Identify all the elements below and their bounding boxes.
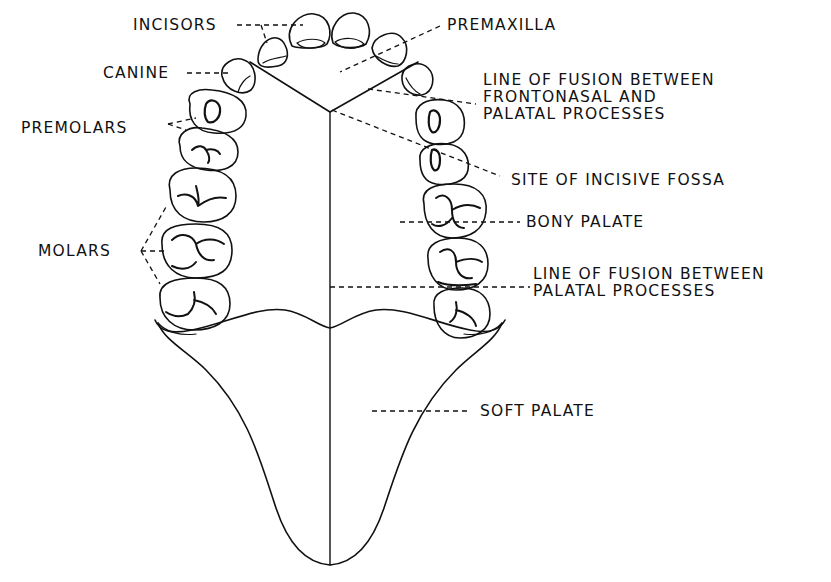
label-line: PALATAL PROCESSES xyxy=(483,104,715,124)
left-premolars xyxy=(179,90,246,171)
label-premaxilla: PREMAXILLA xyxy=(447,15,556,35)
left-molars xyxy=(160,168,236,330)
label-premolars: PREMOLARS xyxy=(21,118,128,138)
label-fusion-palatal: LINE OF FUSION BETWEEN PALATAL PROCESSES xyxy=(533,264,765,301)
label-incisors: INCISORS xyxy=(133,15,217,35)
leader-lines xyxy=(141,25,530,411)
label-line: PALATAL PROCESSES xyxy=(533,281,765,301)
label-canine: CANINE xyxy=(103,63,169,83)
label-molars: MOLARS xyxy=(38,241,111,261)
label-soft-palate: SOFT PALATE xyxy=(480,401,595,421)
label-incisive-fossa: SITE OF INCISIVE FOSSA xyxy=(511,170,725,190)
right-molars xyxy=(423,184,490,338)
incisor-teeth xyxy=(258,13,407,67)
label-bony-palate: BONY PALATE xyxy=(526,212,644,232)
premaxilla-boundary xyxy=(250,62,418,112)
right-premolars xyxy=(416,100,469,185)
label-fusion-frontonasal-palatal: LINE OF FUSION BETWEEN FRONTONASAL AND P… xyxy=(483,70,715,124)
palate-diagram: INCISORS CANINE PREMOLARS MOLARS PREMAXI… xyxy=(0,0,831,582)
